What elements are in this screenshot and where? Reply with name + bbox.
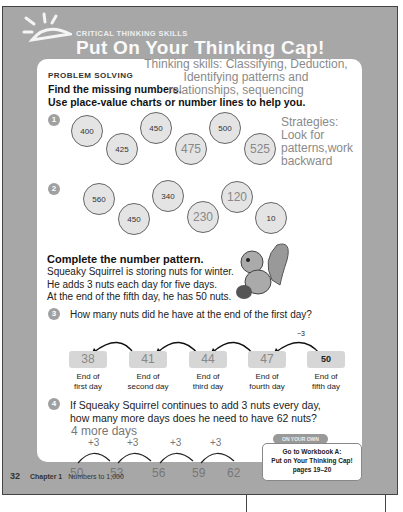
flower-q2-6: 10 bbox=[255, 202, 287, 234]
page-footer: 32 Chapter 1 Numbers to 1,000 bbox=[10, 471, 124, 481]
skills-annotation: Thinking skills: Classifying, Deduction,… bbox=[141, 58, 351, 97]
day-label: End ofthird day bbox=[183, 372, 233, 392]
answer-box-day2: 41 bbox=[129, 351, 167, 368]
pattern-text: Squeaky Squirrel is storing nuts for win… bbox=[47, 266, 234, 304]
question-text: If Squeaky Squirrel continues to add 3 n… bbox=[70, 399, 321, 424]
day-label: End offifth day bbox=[301, 372, 351, 392]
question-number: 4 bbox=[48, 398, 60, 410]
day-label: End ofsecond day bbox=[123, 372, 173, 392]
day-label: End offourth day bbox=[242, 372, 292, 392]
strategies-annotation: Strategies:Look forpatterns,workbackward bbox=[281, 116, 353, 168]
flower-q2-3: 340 bbox=[152, 180, 184, 212]
flower-q2-4-answer: 230 bbox=[187, 201, 219, 233]
flower-q1-3: 450 bbox=[140, 112, 172, 144]
header-title: Put On Your Thinking Cap! bbox=[76, 37, 325, 59]
question-number: 3 bbox=[48, 308, 60, 320]
flower-q2-5-answer: 120 bbox=[221, 181, 253, 213]
answer-box-day3: 44 bbox=[189, 351, 227, 368]
forward-arrows bbox=[75, 447, 245, 465]
flower-q1-6-answer: 525 bbox=[244, 133, 276, 165]
answer-box-day1: 38 bbox=[69, 351, 107, 368]
pattern-heading: Complete the number pattern. bbox=[47, 253, 203, 265]
question-number: 1 bbox=[48, 114, 60, 126]
flower-q2-1: 560 bbox=[83, 183, 115, 215]
workbook-callout: Go to Workbook A:Put on Your Thinking Ca… bbox=[262, 443, 362, 481]
q4-answer: 4 more days bbox=[71, 424, 137, 438]
squirrel-illustration bbox=[232, 240, 294, 302]
flower-q1-2: 425 bbox=[106, 133, 138, 165]
question-number: 2 bbox=[48, 183, 60, 195]
answer-box-day4: 47 bbox=[248, 351, 286, 368]
question-text: How many nuts did he have at the end of … bbox=[70, 309, 312, 322]
flower-q2-2: 450 bbox=[118, 203, 150, 235]
given-box-day5: 50 bbox=[307, 351, 345, 368]
flower-q1-1: 400 bbox=[71, 115, 103, 147]
page-edge bbox=[246, 495, 386, 512]
thinking-cap-icon bbox=[22, 12, 72, 47]
flower-q1-5: 500 bbox=[209, 112, 241, 144]
day-label: End offirst day bbox=[63, 372, 113, 392]
section-label: PROBLEM SOLVING bbox=[48, 71, 133, 80]
flower-q1-4-answer: 475 bbox=[175, 133, 207, 165]
